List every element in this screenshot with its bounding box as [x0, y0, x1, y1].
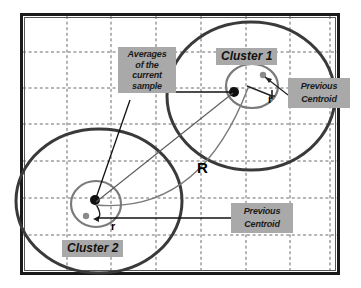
big-radius-label: R — [197, 160, 208, 175]
cluster-1-small-radius-label: r — [268, 92, 272, 107]
cluster-2-label: Cluster 2 — [62, 240, 123, 257]
cluster-1-label: Cluster 1 — [216, 48, 277, 65]
previous-centroid-top-label: Previous Centroid — [288, 78, 350, 108]
previous-centroid-bottom-label: Previous Centroid — [231, 203, 293, 233]
cluster-2-small-radius-label: r — [111, 219, 115, 234]
cluster-diagram: Averages of the current sample Cluster 1… — [0, 0, 361, 288]
diagram-canvas — [0, 0, 361, 288]
cluster-2-previous-centroid-dot — [83, 213, 89, 219]
averages-callout-label: Averages of the current sample — [118, 47, 176, 93]
